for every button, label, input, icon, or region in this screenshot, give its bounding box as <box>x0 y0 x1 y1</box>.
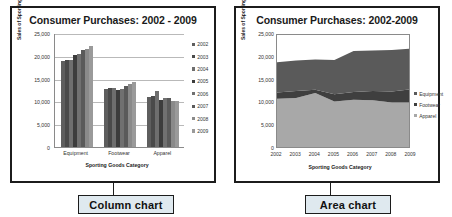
y-tick-label: 0 <box>47 145 50 151</box>
legend-label: 2002 <box>197 41 208 47</box>
area-chart-panel: Consumer Purchases: 2002-2009 Sales of S… <box>234 6 440 183</box>
y-tick-label: 10,000 <box>34 99 50 105</box>
area-chart-leader-line <box>330 183 331 195</box>
legend-label: Equipment <box>419 91 443 97</box>
legend-swatch-icon <box>414 103 417 106</box>
bar-group <box>98 34 141 147</box>
legend-item[interactable]: 2005 <box>192 75 218 87</box>
legend-item[interactable]: 2007 <box>192 100 218 112</box>
column-chart-plot: Sales of Sporting Goods in Millions 05,0… <box>12 8 214 181</box>
area-chart-x-axis-title: Sporting Goods Category <box>264 164 416 170</box>
legend-label: 2008 <box>197 116 208 122</box>
column-chart-legend: 20022003200420052006200720082009 <box>192 38 218 137</box>
x-year-label: 2009 <box>404 151 415 157</box>
legend-item[interactable]: Equipment <box>414 88 444 99</box>
legend-item[interactable]: 2004 <box>192 63 218 75</box>
y-tick-label: 5,000 <box>261 122 274 128</box>
legend-label: Footwear <box>419 102 440 108</box>
legend-swatch-icon <box>192 105 195 108</box>
legend-swatch-icon <box>192 43 195 46</box>
x-year-label: 2003 <box>290 151 301 157</box>
bar-group <box>142 34 184 147</box>
x-year-label: 2005 <box>328 151 339 157</box>
y-tick-label: 25,000 <box>34 31 50 37</box>
legend-label: 2007 <box>197 103 208 109</box>
legend-item[interactable]: 2002 <box>192 38 218 50</box>
bar[interactable] <box>175 101 179 148</box>
y-tick-label: 20,000 <box>258 54 274 60</box>
legend-item[interactable]: Apparel <box>414 110 444 121</box>
x-category-label: Apparel <box>153 150 171 156</box>
x-year-label: 2006 <box>347 151 358 157</box>
legend-item[interactable]: 2008 <box>192 112 218 124</box>
legend-swatch-icon <box>192 129 195 132</box>
y-tick-label: 10,000 <box>258 99 274 105</box>
y-tick-label: 20,000 <box>34 54 50 60</box>
legend-swatch-icon <box>192 117 195 120</box>
bar[interactable] <box>89 46 93 147</box>
area-chart-x-tick-labels: 20022003200420052006200720082009 <box>276 151 410 160</box>
y-tick-label: 15,000 <box>34 77 50 83</box>
area-chart-plot-area <box>276 34 410 148</box>
legend-swatch-icon <box>192 55 195 58</box>
legend-item[interactable]: 2006 <box>192 88 218 100</box>
legend-label: 2009 <box>197 128 208 134</box>
legend-label: 2005 <box>197 78 208 84</box>
bar[interactable] <box>132 82 136 147</box>
legend-swatch-icon <box>192 67 195 70</box>
legend-item[interactable]: 2009 <box>192 125 218 137</box>
area-chart-legend: EquipmentFootwearApparel <box>414 88 444 121</box>
area-chart-plot: Sales of Sporting Goods in Millions 05,0… <box>236 8 438 181</box>
column-chart-y-tick-labels: 05,00010,00015,00020,00025,000 <box>22 34 52 148</box>
x-year-label: 2008 <box>385 151 396 157</box>
y-tick-label: 15,000 <box>258 77 274 83</box>
x-category-label: Equipment <box>63 150 88 156</box>
legend-label: 2003 <box>197 54 208 60</box>
x-year-label: 2004 <box>309 151 320 157</box>
area-chart-y-tick-labels: 05,00010,00015,00020,00025,000 <box>246 34 276 148</box>
figure-root: Consumer Purchases: 2002 - 2009 Sales of… <box>0 0 452 217</box>
column-chart-caption: Column chart <box>78 195 174 214</box>
area-chart-svg <box>277 35 410 148</box>
column-chart-x-tick-labels: EquipmentFootwearApparel <box>54 150 184 160</box>
legend-swatch-icon <box>414 114 417 117</box>
area-chart-caption: Area chart <box>305 195 391 214</box>
bar-group <box>55 34 98 147</box>
legend-item[interactable]: Footwear <box>414 99 444 110</box>
legend-swatch-icon <box>192 80 195 83</box>
column-chart-plot-area <box>54 34 184 148</box>
area-series[interactable] <box>277 49 410 95</box>
y-tick-label: 25,000 <box>258 31 274 37</box>
legend-label: Apparel <box>419 113 436 119</box>
legend-item[interactable]: 2003 <box>192 50 218 62</box>
y-tick-label: 5,000 <box>37 122 50 128</box>
legend-label: 2006 <box>197 91 208 97</box>
legend-label: 2004 <box>197 66 208 72</box>
x-year-label: 2002 <box>270 151 281 157</box>
column-chart-x-axis-title: Sporting Goods Category <box>42 162 192 168</box>
column-chart-panel: Consumer Purchases: 2002 - 2009 Sales of… <box>10 6 216 183</box>
column-chart-leader-line <box>113 183 114 195</box>
legend-swatch-icon <box>414 92 417 95</box>
legend-swatch-icon <box>192 92 195 95</box>
x-category-label: Footwear <box>108 150 130 156</box>
x-year-label: 2007 <box>366 151 377 157</box>
